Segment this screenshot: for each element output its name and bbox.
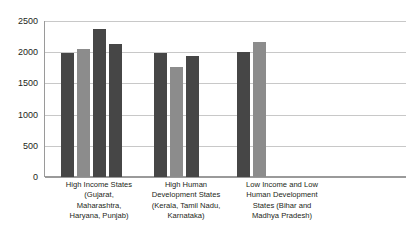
bar	[170, 67, 183, 177]
y-axis-tick-label: 0	[0, 173, 38, 182]
y-axis-tick-label: 500	[0, 142, 38, 151]
y-axis-tick-label: 1500	[0, 79, 38, 88]
bar	[186, 56, 199, 177]
y-axis-tick-label: 2500	[0, 17, 38, 26]
bar	[93, 29, 106, 178]
bars-layer	[45, 21, 406, 177]
bar	[109, 44, 122, 177]
x-axis-category-labels: High Income States(Gujarat,Maharashtra,H…	[45, 180, 406, 235]
category-label-line: States (Bihar and	[221, 201, 343, 211]
bar-chart: 25002000150010005000 High Income States(…	[0, 0, 412, 235]
category-label-line: Human Development	[221, 190, 343, 200]
category-label: Low Income and LowHuman DevelopmentState…	[221, 180, 343, 222]
gridline	[45, 177, 406, 178]
bar	[61, 53, 74, 177]
category-label-line: Low Income and Low	[221, 180, 343, 190]
y-axis-tick-label: 2000	[0, 48, 38, 57]
bar	[154, 53, 167, 177]
bar	[253, 42, 266, 177]
category-label-line: Madhya Pradesh)	[221, 211, 343, 221]
bar	[77, 49, 90, 177]
y-axis-tick-label: 1000	[0, 111, 38, 120]
bar	[237, 52, 250, 177]
